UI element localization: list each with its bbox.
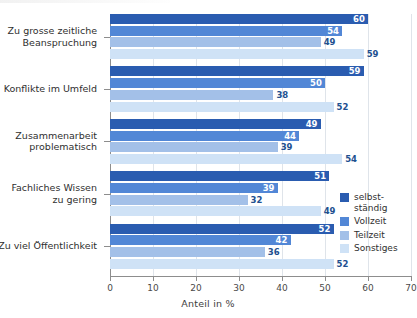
bar: [110, 171, 329, 181]
legend-swatch-icon: [340, 193, 349, 202]
bar: [110, 119, 321, 129]
bar-value-label: 39: [263, 183, 275, 193]
bar-value-label: 54: [345, 154, 357, 164]
legend-label: Sonstiges: [354, 243, 398, 254]
x-tick-mark: [196, 276, 197, 281]
bar: [110, 37, 321, 47]
legend-label: Vollzeit: [354, 216, 386, 227]
category-label: Zu viel Öffentlichkeit: [0, 240, 97, 252]
bar-value-label: 49: [306, 119, 318, 129]
legend-swatch-icon: [340, 231, 349, 240]
x-tick-mark: [325, 276, 326, 281]
bar-value-label: 49: [324, 37, 336, 47]
bar-value-label: 52: [337, 102, 349, 112]
bar: [110, 90, 273, 100]
bar: [110, 154, 342, 164]
bar: [110, 195, 248, 205]
bar: [110, 78, 325, 88]
scan-artifact: [0, 0, 170, 3]
x-axis-title: Anteil in %: [0, 298, 416, 309]
bar-value-label: 32: [251, 195, 263, 205]
bar-value-label: 49: [324, 206, 336, 216]
bar-value-label: 60: [353, 14, 365, 24]
legend-label: selbst- ständig: [354, 192, 387, 213]
legend-swatch-icon: [340, 244, 349, 253]
bar-value-label: 42: [276, 235, 288, 245]
bar: [110, 102, 334, 112]
bar: [110, 14, 368, 24]
bar-value-label: 50: [310, 78, 322, 88]
category-label: Zu grosse zeitliche Beanspruchung: [0, 25, 97, 48]
x-tick-label: 0: [107, 283, 113, 293]
x-tick-label: 60: [362, 283, 373, 293]
x-tick-mark: [110, 276, 111, 281]
x-tick-mark: [153, 276, 154, 281]
gridline: [411, 14, 412, 276]
x-tick-mark: [368, 276, 369, 281]
bar-value-label: 52: [319, 224, 331, 234]
bar-value-label: 36: [268, 247, 280, 257]
bar: [110, 183, 278, 193]
bar-value-label: 59: [349, 66, 361, 76]
bar: [110, 235, 291, 245]
x-tick-label: 30: [233, 283, 244, 293]
bar-value-label: 38: [276, 90, 288, 100]
x-tick-mark: [239, 276, 240, 281]
legend-item[interactable]: selbst- ständig: [340, 192, 398, 213]
bar: [110, 206, 321, 216]
bar-value-label: 54: [327, 26, 339, 36]
category-label: Konflikte im Umfeld: [0, 83, 97, 95]
category-label: Fachliches Wissen zu gering: [0, 182, 97, 205]
x-tick-label: 10: [147, 283, 158, 293]
bar: [110, 142, 278, 152]
x-tick-label: 20: [190, 283, 201, 293]
legend-item[interactable]: Sonstiges: [340, 243, 398, 254]
legend-item[interactable]: Vollzeit: [340, 216, 398, 227]
x-tick-mark: [411, 276, 412, 281]
bar-value-label: 39: [281, 142, 293, 152]
x-axis-line: [110, 276, 412, 277]
category-label: Zusammenarbeit problematisch: [0, 130, 97, 153]
legend-label: Teilzeit: [354, 230, 385, 241]
bar: [110, 49, 364, 59]
bar: [110, 224, 334, 234]
bar-value-label: 52: [337, 259, 349, 269]
chart-legend: selbst- ständigVollzeitTeilzeitSonstiges: [340, 192, 398, 257]
bar-value-label: 44: [284, 131, 296, 141]
bar-value-label: 59: [367, 49, 379, 59]
legend-item[interactable]: Teilzeit: [340, 230, 398, 241]
x-tick-label: 70: [405, 283, 416, 293]
bar: [110, 66, 364, 76]
bar: [110, 26, 342, 36]
x-tick-label: 50: [319, 283, 330, 293]
bar: [110, 131, 299, 141]
bar-value-label: 51: [314, 171, 326, 181]
legend-swatch-icon: [340, 217, 349, 226]
bar: [110, 259, 334, 269]
x-tick-label: 40: [276, 283, 287, 293]
bar: [110, 247, 265, 257]
x-tick-mark: [282, 276, 283, 281]
